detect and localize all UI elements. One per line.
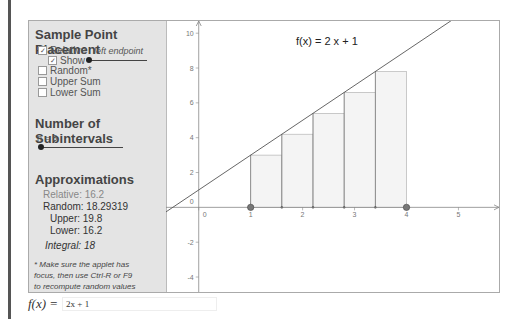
sample-point-slider[interactable] — [89, 60, 147, 61]
input-bar: f(x) = 2x + 1 — [28, 296, 217, 312]
applet-frame: Sample Point Placement ✓ Relative left e… — [28, 20, 500, 293]
subintervals-slider-handle[interactable] — [38, 144, 44, 150]
function-label: f(x) = — [28, 296, 58, 312]
riemann-bar — [344, 92, 375, 207]
note-line-3: to recompute random values — [34, 282, 135, 291]
approximations-title: Approximations — [35, 172, 134, 187]
function-title: f(x) = 2 x + 1 — [296, 35, 358, 47]
integral-value: Integral: 18 — [45, 240, 95, 251]
control-panel: Sample Point Placement ✓ Relative left e… — [29, 21, 167, 292]
function-input[interactable]: 2x + 1 — [62, 297, 217, 311]
random-checkbox[interactable]: Random* — [38, 65, 92, 76]
y-tick-label: 8 — [190, 65, 194, 72]
upper-value: Upper: 19.8 — [50, 213, 102, 224]
lower-value: Lower: 16.2 — [50, 225, 102, 236]
lower-label: Lower Sum — [50, 87, 101, 98]
y-tick-label: -2 — [187, 239, 193, 246]
y-tick-label: 10 — [186, 30, 194, 37]
subintervals-slider[interactable] — [41, 147, 123, 148]
relative-value: Relative: 16.2 — [43, 189, 104, 200]
slider-caption: left endpoint — [94, 46, 143, 56]
random-box-icon — [38, 66, 47, 75]
note-line-1: * Make sure the applet has — [34, 260, 129, 269]
upper-box-icon — [38, 77, 47, 86]
y-tick-label: 4 — [190, 134, 194, 141]
y-tick-label: 0 — [190, 198, 194, 205]
x-tick-label: 2 — [301, 211, 305, 218]
x-tick-label: 0 — [203, 211, 207, 218]
riemann-bar — [251, 155, 282, 207]
y-tick-label: -4 — [187, 274, 193, 281]
sample-point-slider-handle[interactable] — [86, 57, 92, 63]
n-label: n = 5 — [37, 133, 57, 143]
interval-endpoint-handle — [403, 204, 409, 210]
random-label: Random* — [50, 65, 92, 76]
y-tick-label: 6 — [190, 99, 194, 106]
lower-sum-checkbox[interactable]: Lower Sum — [38, 87, 101, 98]
interval-endpoint-handle — [247, 204, 253, 210]
note-line-2: focus, then use Ctrl-R or F9 — [34, 271, 132, 280]
upper-sum-checkbox[interactable]: Upper Sum — [38, 76, 101, 87]
window-edge — [8, 0, 11, 319]
random-value: Random: 18.29319 — [43, 201, 128, 212]
riemann-bar — [313, 113, 344, 207]
upper-label: Upper Sum — [50, 76, 101, 87]
x-tick-label: 3 — [353, 211, 357, 218]
lower-box-icon — [38, 88, 47, 97]
y-tick-label: 2 — [190, 169, 194, 176]
show-check-icon: ✓ — [48, 56, 57, 65]
graph-view[interactable]: 012345-4-20246810f(x) = 2 x + 1 — [166, 21, 500, 292]
x-tick-label: 4 — [405, 211, 409, 218]
x-tick-label: 5 — [456, 211, 460, 218]
riemann-bar — [375, 72, 406, 208]
relative-check-icon: ✓ — [38, 46, 47, 55]
x-tick-label: 1 — [249, 211, 253, 218]
riemann-bar — [282, 134, 313, 207]
